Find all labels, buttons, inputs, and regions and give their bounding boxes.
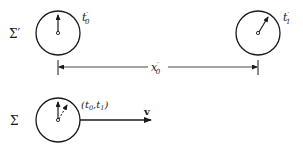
clock-moving-time-label: (t0,t1) (81, 99, 108, 112)
clock-hand-dashed-icon (59, 105, 67, 119)
separation-dimension: x′0 (58, 60, 258, 76)
clock-remote-time-label: t′1 (283, 11, 290, 26)
clock-hand-tilted-icon (259, 17, 268, 32)
clock-origin (36, 11, 80, 55)
relativity-clock-diagram: Σ′ t′0 t′1 x′0 Σ (t0,t1) v (0, 0, 303, 155)
clock-remote (236, 11, 280, 55)
clock-face-icon (236, 11, 280, 55)
frame-sigma-label: Σ (10, 114, 18, 128)
clock-moving (36, 98, 80, 142)
velocity-label: v (143, 106, 151, 117)
frame-sigma-prime-label: Σ′ (9, 27, 20, 41)
clock-origin-time-label: t′0 (82, 11, 90, 26)
